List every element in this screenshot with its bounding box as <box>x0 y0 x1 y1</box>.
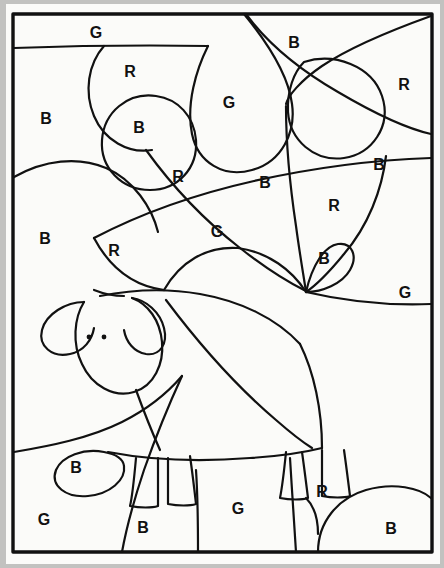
ground-arc-right <box>306 498 318 534</box>
coloring-page-artwork <box>0 0 444 568</box>
color-code-label: B <box>373 157 385 173</box>
sheep-left-ear <box>41 302 94 355</box>
sheep-wool-divider <box>166 300 312 448</box>
sheep-neck-line <box>136 390 160 450</box>
right-foliage-petal <box>306 156 386 292</box>
color-code-label: R <box>316 484 328 500</box>
center-teardrop-shape <box>190 14 292 172</box>
sheep-eye-left <box>87 335 92 340</box>
color-code-label: R <box>108 243 120 259</box>
foliage-arc-left <box>94 238 164 290</box>
color-code-label: B <box>137 520 149 536</box>
color-code-label: G <box>399 285 411 301</box>
bush-bottom-right <box>318 486 431 552</box>
sheep-tail-oval <box>55 451 124 496</box>
sheep-eye-right <box>102 335 107 340</box>
color-code-label: G <box>38 512 50 528</box>
color-code-label: G <box>223 95 235 111</box>
sheep-flank-right <box>300 344 322 448</box>
coloring-page-canvas: G B R R G B B B R B R B G R B G B G B G … <box>0 0 444 568</box>
color-code-label: B <box>385 521 397 537</box>
color-code-label: B <box>133 120 145 136</box>
sheep-head <box>75 298 162 394</box>
color-code-label: G <box>232 501 244 517</box>
sheep-foreleg-back <box>168 456 196 506</box>
ground-divider-right <box>290 458 296 552</box>
color-code-label: G <box>90 25 102 41</box>
sheep-hindleg-front <box>280 452 308 500</box>
color-code-label: R <box>172 169 184 185</box>
color-code-label: R <box>124 64 136 80</box>
sheep-back-line <box>100 290 300 344</box>
foliage-arc-mid <box>164 248 238 290</box>
color-code-label: G <box>211 224 223 240</box>
hill-left-arc <box>14 161 158 232</box>
color-code-label: B <box>318 251 330 267</box>
color-code-label: R <box>328 198 340 214</box>
color-code-label: B <box>40 111 52 127</box>
color-code-label: B <box>259 175 271 191</box>
sky-band-line <box>14 46 208 48</box>
color-code-label: R <box>398 77 410 93</box>
right-lower-sweep <box>306 292 431 304</box>
color-code-label: B <box>288 35 300 51</box>
ground-divider-center <box>196 470 198 552</box>
upper-right-diagonal <box>246 14 431 134</box>
color-code-label: B <box>70 460 82 476</box>
color-code-label: B <box>39 231 51 247</box>
